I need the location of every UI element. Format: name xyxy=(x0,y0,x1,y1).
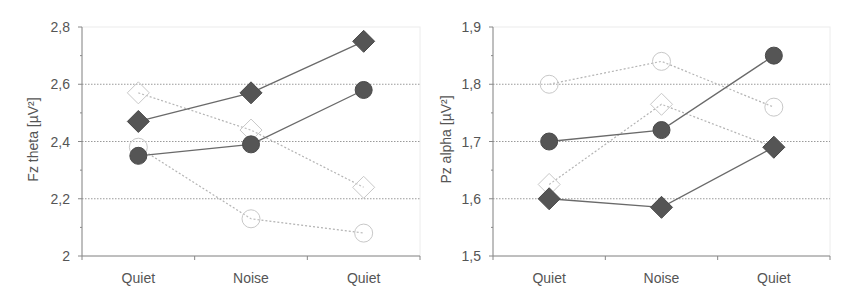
right-chart: 1,51,61,71,81,9QuietNoiseQuietPz alpha [… xyxy=(438,19,830,286)
y-tick-label: 1,9 xyxy=(462,19,482,35)
y-tick-label: 2,8 xyxy=(51,19,71,35)
y-axis-label: Fz theta [µV²] xyxy=(25,97,41,181)
y-tick-label: 1,7 xyxy=(462,134,482,150)
data-point-diamond xyxy=(240,82,262,104)
figure: 22,22,42,62,8QuietNoiseQuietFz theta [µV… xyxy=(0,0,855,298)
data-point-diamond xyxy=(651,93,673,115)
data-point-diamond xyxy=(353,30,375,52)
data-point-circle xyxy=(541,133,558,150)
y-tick-label: 2 xyxy=(62,248,70,264)
data-point-diamond xyxy=(763,136,785,158)
data-point-circle xyxy=(765,47,782,64)
data-point-circle xyxy=(653,122,670,139)
data-point-circle xyxy=(130,147,147,164)
data-point-diamond xyxy=(538,188,560,210)
y-tick-label: 1,6 xyxy=(462,191,482,207)
y-axis-label: Pz alpha [µV²] xyxy=(438,95,454,183)
x-tick-label: Quiet xyxy=(347,270,381,286)
y-tick-label: 1,8 xyxy=(462,76,482,92)
data-point-diamond xyxy=(127,82,149,104)
chart-canvas: 22,22,42,62,8QuietNoiseQuietFz theta [µV… xyxy=(0,0,855,298)
x-tick-label: Noise xyxy=(233,270,269,286)
x-tick-label: Noise xyxy=(644,270,680,286)
data-point-diamond xyxy=(127,110,149,132)
series-filled-diamond xyxy=(127,30,374,132)
y-tick-label: 1,5 xyxy=(462,248,482,264)
data-point-circle xyxy=(355,224,373,242)
series-open-diamond xyxy=(538,93,785,195)
data-point-diamond xyxy=(353,176,375,198)
y-tick-label: 2,4 xyxy=(51,134,71,150)
data-point-circle xyxy=(243,136,260,153)
x-tick-label: Quiet xyxy=(757,270,791,286)
x-tick-label: Quiet xyxy=(532,270,566,286)
data-point-circle xyxy=(540,75,558,93)
series-line xyxy=(549,104,774,184)
series-filled-diamond xyxy=(538,136,785,218)
data-point-circle xyxy=(653,52,671,70)
y-tick-label: 2,6 xyxy=(51,76,71,92)
series-open-circle xyxy=(129,138,372,242)
x-tick-label: Quiet xyxy=(122,270,156,286)
y-tick-label: 2,2 xyxy=(51,191,71,207)
data-point-circle xyxy=(765,98,783,116)
data-point-circle xyxy=(355,81,372,98)
data-point-circle xyxy=(242,210,260,228)
data-point-diamond xyxy=(651,196,673,218)
left-chart: 22,22,42,62,8QuietNoiseQuietFz theta [µV… xyxy=(25,19,420,286)
